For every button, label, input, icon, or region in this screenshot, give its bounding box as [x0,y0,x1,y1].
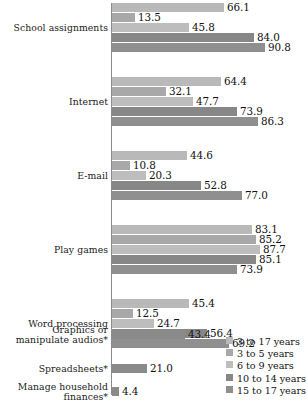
bar-group: School assignments66.113.545.884.090.8 [0,3,307,53]
bar-row: 84.0 [112,33,291,42]
bar [112,309,133,318]
bars-stack: 66.113.545.884.090.8 [112,3,291,53]
legend-color-swatch [226,386,233,393]
bar-row: 20.3 [112,171,268,180]
legend-color-swatch [226,349,233,356]
bar-value-label: 73.9 [237,265,263,275]
bars-stack: 83.185.287.785.173.9 [112,225,286,275]
bar-value-label: 21.0 [147,364,173,374]
category-label: Manage householdfinances* [0,382,108,403]
legend-color-swatch [226,374,233,381]
bar [112,23,189,32]
bar-value-label: 20.3 [146,171,172,181]
category-label-line: Spreadsheets* [0,364,108,374]
bar [112,265,237,274]
bar [112,181,201,190]
chart-legend: 3 to 17 years3 to 5 years6 to 9 years10 … [226,331,306,392]
bar [112,235,256,244]
category-label-line: Internet [0,97,108,107]
bar-row: 24.7 [112,319,255,328]
bar [112,319,154,328]
bar [112,161,130,170]
bar-value-label: 86.3 [258,117,284,127]
bar [112,77,221,86]
bar-value-label: 24.7 [154,319,180,329]
category-label-line: School assignments [0,23,108,33]
bar-row: 73.9 [112,107,284,116]
category-label: School assignments [0,23,108,33]
category-label-line: manipulate audios* [0,335,108,345]
bar-value-label: 13.5 [135,13,161,23]
horizontal-bar-chart: School assignments66.113.545.884.090.8In… [0,0,307,409]
bar-value-label: 4.4 [119,387,138,397]
bar-row: 4.4 [112,387,138,396]
category-label: Graphics ormanipulate audios* [0,325,108,346]
bar-group: E-mail44.610.820.352.877.0 [0,151,307,201]
bar-group: Internet64.432.147.773.986.3 [0,77,307,127]
bar [112,33,254,42]
bar-row: 43.4 [112,330,211,339]
bar [112,330,185,339]
bar [112,87,166,96]
bar-value-label: 73.9 [237,107,263,117]
bar-value-label: 12.5 [133,309,159,319]
bars-stack: 4.4 [112,387,138,397]
legend-item[interactable]: 15 to 17 years [226,380,306,392]
category-label: Play games [0,245,108,255]
bar [112,3,224,12]
bar-value-label: 52.8 [201,181,227,191]
bars-stack: 21.0 [112,364,173,374]
category-label-line: finances* [0,392,108,402]
bar-row: 12.5 [112,309,255,318]
legend-color-swatch [226,361,233,368]
bars-stack: 43.4 [112,330,211,340]
bar [112,117,258,126]
bar-row: 85.2 [112,235,286,244]
category-label: E-mail [0,171,108,181]
bars-stack: 64.432.147.773.986.3 [112,77,284,127]
bar [112,171,146,180]
bar-row: 64.4 [112,77,284,86]
bar [112,387,119,396]
bar-row: 86.3 [112,117,284,126]
bar-value-label: 44.6 [187,151,213,161]
bar-row: 45.4 [112,299,255,308]
bar-value-label: 47.7 [193,97,219,107]
bar-row: 90.8 [112,43,291,52]
bar-value-label: 66.1 [224,3,250,13]
bar [112,255,256,264]
bars-stack: 44.610.820.352.877.0 [112,151,268,201]
bar [112,107,237,116]
legend-color-swatch [226,337,233,344]
legend-item[interactable]: 3 to 17 years [226,331,306,343]
bar-value-label: 90.8 [265,43,291,53]
bar-value-label: 77.0 [242,191,268,201]
bar-value-label: 45.4 [189,299,215,309]
bar-value-label: 64.4 [221,77,247,87]
category-label: Internet [0,97,108,107]
legend-label: 15 to 17 years [233,385,306,396]
bar [112,364,147,373]
category-label: Spreadsheets* [0,364,108,374]
bar [112,339,229,348]
bar-value-label: 32.1 [166,87,192,97]
category-label-line: E-mail [0,171,108,181]
bar [112,43,265,52]
bar-row: 73.9 [112,265,286,274]
bar-row: 21.0 [112,364,173,373]
bar-value-label: 45.8 [189,23,215,33]
bar [112,97,193,106]
bar-row: 10.8 [112,161,268,170]
bar-value-label: 43.4 [185,330,211,340]
bar [112,225,252,234]
bar [112,13,135,22]
bar [112,245,260,254]
bar [112,191,242,200]
bar-row: 77.0 [112,191,268,200]
category-label-line: Play games [0,245,108,255]
legend-item[interactable]: 10 to 14 years [226,368,306,380]
bar-group: Play games83.185.287.785.173.9 [0,225,307,275]
